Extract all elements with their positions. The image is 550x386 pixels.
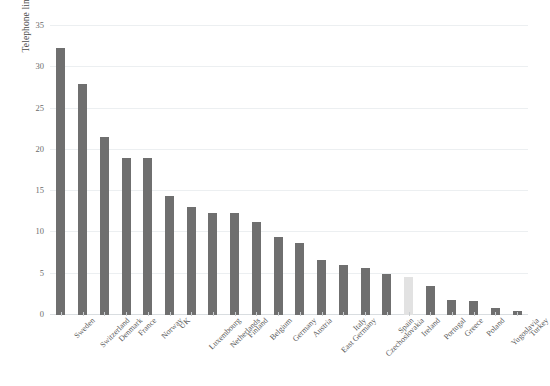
- bar: [295, 243, 304, 315]
- bar: [78, 84, 87, 315]
- plot-area: 05101520253035: [50, 26, 528, 315]
- x-axis-tick: [83, 312, 84, 316]
- x-axis-tick: [278, 312, 279, 316]
- bar: [208, 213, 217, 315]
- bar: [143, 158, 152, 315]
- x-axis-tick: [126, 312, 127, 316]
- y-axis-tick-label: 25: [36, 103, 45, 113]
- x-axis-tick: [61, 312, 62, 316]
- x-axis-tick: [409, 312, 410, 316]
- x-axis-tick: [474, 312, 475, 316]
- x-axis-tick: [452, 312, 453, 316]
- x-axis-tick: [170, 312, 171, 316]
- bar: [56, 48, 65, 315]
- bar: [274, 237, 283, 315]
- bar: [404, 277, 413, 315]
- bar: [230, 213, 239, 315]
- bar: [382, 274, 391, 315]
- bar: [100, 137, 109, 315]
- x-axis-labels: SwedenSwitzerlandDenmarkFranceNorwayUKLu…: [50, 316, 528, 386]
- x-axis-tick: [343, 312, 344, 316]
- x-axis-tick: [256, 312, 257, 316]
- x-axis-label: Portugal: [442, 316, 468, 342]
- x-axis-tick: [191, 312, 192, 316]
- y-axis-tick-label: 35: [36, 20, 45, 30]
- bar: [187, 207, 196, 315]
- y-axis-tick-label: 20: [36, 144, 45, 154]
- y-axis-title: Telephone lines per 100 inhabitants, 195…: [18, 0, 34, 86]
- x-axis-tick: [430, 312, 431, 316]
- bar: [317, 260, 326, 315]
- x-axis-label: Belgium: [268, 316, 294, 342]
- y-axis-tick-label: 10: [36, 226, 45, 236]
- bar: [426, 286, 435, 315]
- x-axis-tick: [300, 312, 301, 316]
- x-axis-tick: [148, 312, 149, 316]
- bar: [122, 158, 131, 315]
- y-axis-tick-label: 5: [40, 268, 44, 278]
- x-axis-label: Poland: [484, 316, 506, 338]
- y-axis-tick-label: 15: [36, 185, 45, 195]
- y-axis-tick-label: 0: [40, 309, 44, 319]
- x-axis-tick: [235, 312, 236, 316]
- x-axis-tick: [213, 312, 214, 316]
- bars-layer: [50, 26, 528, 315]
- x-axis-tick: [322, 312, 323, 316]
- x-axis-tick: [387, 312, 388, 316]
- x-axis-tick: [495, 312, 496, 316]
- x-axis-tick: [104, 312, 105, 316]
- x-axis-tick: [517, 312, 518, 316]
- bar: [165, 196, 174, 315]
- bar: [252, 222, 261, 315]
- bar: [361, 268, 370, 315]
- x-axis-tick: [365, 312, 366, 316]
- x-axis-label: Sweden: [72, 316, 96, 340]
- y-axis-tick-label: 30: [36, 61, 45, 71]
- bar: [339, 265, 348, 315]
- x-axis-label: Greece: [463, 316, 485, 338]
